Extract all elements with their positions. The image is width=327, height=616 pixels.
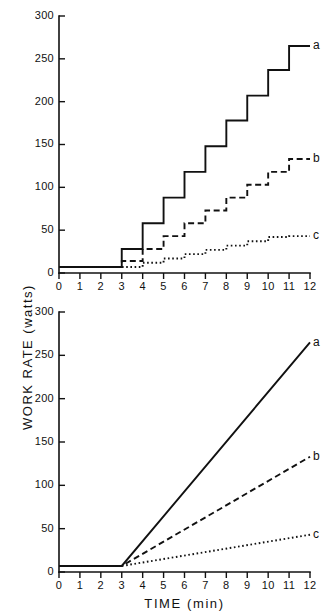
svg-text:3: 3 [119,579,125,591]
series-label-a: a [313,38,320,52]
series-label-b: b [313,151,320,165]
svg-text:150: 150 [35,435,54,447]
svg-text:8: 8 [223,280,229,292]
svg-text:300: 300 [35,9,54,21]
svg-text:6: 6 [181,280,187,292]
svg-text:12: 12 [304,579,317,591]
svg-text:10: 10 [262,280,275,292]
svg-text:0: 0 [56,280,62,292]
ramp-protocol-chart: 0501001502002503000123456789101112abcTIM… [0,300,327,616]
svg-text:150: 150 [35,137,54,149]
svg-text:5: 5 [160,280,166,292]
series-label-b: b [313,449,320,463]
series-label-c: c [313,527,319,541]
svg-text:11: 11 [283,280,295,292]
series-b [59,457,310,566]
svg-text:7: 7 [202,280,208,292]
chart-panel-top: 0501001502002503000123456789101112abc [0,0,327,308]
series-a [59,342,310,566]
svg-text:50: 50 [41,223,54,235]
svg-text:9: 9 [244,579,250,591]
svg-text:4: 4 [139,280,145,292]
svg-text:3: 3 [119,280,125,292]
series-label-a: a [313,335,320,349]
chart-panel-bottom: 0501001502002503000123456789101112abcTIM… [0,300,327,616]
series-label-c: c [313,228,319,242]
svg-text:2: 2 [98,280,104,292]
svg-text:1: 1 [77,579,83,591]
svg-text:5: 5 [160,579,166,591]
svg-text:0: 0 [48,266,54,278]
svg-text:4: 4 [139,579,145,591]
svg-text:8: 8 [223,579,229,591]
svg-text:2: 2 [98,579,104,591]
svg-text:1: 1 [77,280,83,292]
svg-text:6: 6 [181,579,187,591]
svg-text:11: 11 [283,579,295,591]
svg-text:50: 50 [41,522,54,534]
svg-text:250: 250 [35,52,54,64]
svg-text:7: 7 [202,579,208,591]
svg-text:0: 0 [48,565,54,577]
step-protocol-chart: 0501001502002503000123456789101112abc [0,0,327,308]
svg-text:12: 12 [304,280,317,292]
x-axis-title: TIME (min) [144,596,224,611]
svg-text:10: 10 [262,579,275,591]
svg-text:9: 9 [244,280,250,292]
svg-text:300: 300 [35,305,54,317]
svg-text:0: 0 [56,579,62,591]
figure-root: WORK RATE (watts) 0501001502002503000123… [0,0,327,616]
svg-text:200: 200 [35,392,54,404]
svg-text:100: 100 [35,478,54,490]
series-c [59,236,310,267]
series-c [59,535,310,566]
svg-text:100: 100 [35,180,54,192]
svg-text:200: 200 [35,95,54,107]
svg-text:250: 250 [35,348,54,360]
